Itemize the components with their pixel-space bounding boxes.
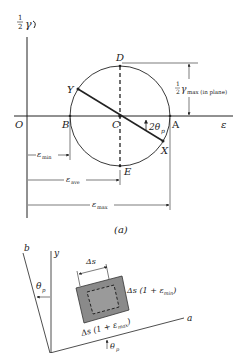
svg-text:1: 1 [18, 14, 22, 22]
point-c [118, 114, 122, 118]
label-e: E [123, 166, 132, 177]
gamma-max-dimension: 1 2 γ max (in plane) [122, 63, 237, 115]
label-c: C [112, 119, 120, 130]
rotation-arrow-icon [33, 21, 35, 28]
label-b: B [61, 119, 69, 130]
svg-text:ε: ε [37, 150, 41, 159]
label-side-min: Δs (1 + εmin) [126, 286, 176, 296]
label-d: D [115, 52, 124, 63]
svg-text:γ: γ [25, 18, 32, 31]
svg-text:ε: ε [66, 175, 70, 184]
strain-element-diagram: b y a θ p θ p Δs [23, 243, 192, 353]
axis-b [23, 253, 50, 353]
svg-text:max: max [97, 204, 108, 210]
point-d [119, 65, 122, 68]
svg-text:ave: ave [71, 179, 80, 185]
point-x [162, 140, 165, 143]
svg-text:p: p [161, 127, 165, 135]
svg-text:2θ: 2θ [148, 122, 161, 132]
svg-text:Δs: Δs [85, 257, 96, 266]
svg-text:θ: θ [110, 342, 115, 351]
svg-text:ε: ε [92, 200, 96, 209]
svg-text:Δs (1 + εmin): Δs (1 + εmin) [126, 286, 176, 296]
label-b-axis: b [24, 243, 30, 253]
eps-ave-dimension: ε ave [28, 170, 120, 185]
svg-text:min: min [42, 154, 52, 160]
theta-p-lower: θ p [107, 340, 120, 353]
svg-text:p: p [42, 287, 46, 294]
point-a [169, 115, 172, 118]
label-a: A [171, 119, 180, 130]
vertical-axis-label: 1 2 γ [17, 14, 35, 31]
figure-caption: (a) [114, 224, 128, 235]
point-e [119, 165, 122, 168]
svg-text:1: 1 [176, 80, 180, 87]
label-epsilon-axis: ε [221, 119, 226, 130]
label-a-axis: a [187, 313, 192, 323]
svg-text:max (in plane): max (in plane) [187, 89, 227, 96]
label-x: X [160, 145, 169, 156]
label-y-axis: y [53, 248, 60, 258]
label-o: O [15, 119, 23, 130]
point-y [77, 88, 80, 91]
mohr-circle-strain-figure: 1 2 γ O B C D E A X Y ε 2θ [0, 0, 240, 353]
point-b [69, 115, 72, 118]
theta-p-upper: θ p [36, 281, 50, 297]
label-y: Y [67, 84, 75, 95]
svg-text:2: 2 [18, 23, 22, 31]
svg-text:p: p [116, 346, 120, 353]
svg-text:2: 2 [176, 88, 180, 95]
mohr-circle-diagram: 1 2 γ O B C D E A X Y ε 2θ [14, 14, 237, 235]
